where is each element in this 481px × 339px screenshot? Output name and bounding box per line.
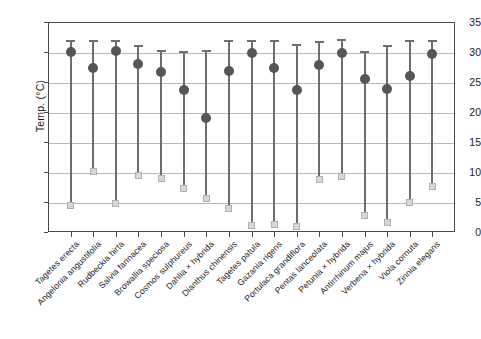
minimum-marker: [316, 176, 323, 183]
range-line: [386, 45, 388, 223]
minimum-marker: [248, 222, 255, 229]
range-line: [70, 40, 72, 205]
minimum-marker: [135, 172, 142, 179]
maximum-marker: [315, 41, 324, 43]
mean-marker: [133, 59, 143, 69]
x-axis-tick-mark: [410, 232, 411, 237]
range-line: [341, 39, 343, 176]
minimum-marker: [361, 212, 368, 219]
minimum-marker: [338, 173, 345, 180]
maximum-marker: [383, 45, 392, 47]
maximum-marker: [292, 44, 301, 46]
maximum-marker: [247, 40, 256, 42]
x-axis-tick-mark: [297, 232, 298, 237]
minimum-marker: [67, 202, 74, 209]
x-axis-tick-mark: [206, 232, 207, 237]
range-line: [296, 44, 298, 226]
mean-marker: [360, 74, 370, 84]
mean-marker: [111, 46, 121, 56]
minimum-marker: [406, 199, 413, 206]
x-axis-tick-mark: [71, 232, 72, 237]
maximum-marker: [111, 40, 120, 42]
range-line: [251, 40, 253, 225]
range-line: [205, 50, 207, 198]
maximum-marker: [89, 40, 98, 42]
x-axis-tick-mark: [342, 232, 343, 237]
minimum-marker: [293, 223, 300, 230]
maximum-marker: [66, 40, 75, 42]
y-axis-title: Temp. (°C): [34, 46, 46, 166]
maximum-marker: [270, 40, 279, 42]
mean-marker: [156, 67, 166, 77]
mean-marker: [224, 66, 234, 76]
maximum-marker: [360, 51, 369, 53]
mean-marker: [88, 63, 98, 73]
chart-figure: Temp. (°C) 05101520253035 Tagetes erecta…: [0, 0, 481, 339]
mean-marker: [405, 71, 415, 81]
maximum-marker: [428, 40, 437, 42]
range-line: [115, 40, 117, 203]
x-axis-tick-mark: [138, 232, 139, 237]
maximum-marker: [179, 51, 188, 53]
x-axis-tick-mark: [387, 232, 388, 237]
maximum-marker: [157, 50, 166, 52]
x-axis-tick-mark: [252, 232, 253, 237]
x-axis-tick-mark: [229, 232, 230, 237]
minimum-marker: [180, 185, 187, 192]
minimum-marker: [429, 183, 436, 190]
x-axis-tick-mark: [365, 232, 366, 237]
maximum-marker: [134, 45, 143, 47]
maximum-marker: [337, 39, 346, 41]
range-line: [431, 40, 433, 186]
minimum-marker: [225, 205, 232, 212]
minimum-marker: [112, 200, 119, 207]
mean-marker: [247, 48, 257, 58]
mean-marker: [179, 85, 189, 95]
range-line: [409, 40, 411, 202]
minimum-marker: [384, 219, 391, 226]
minimum-marker: [271, 221, 278, 228]
x-axis-tick-mark: [432, 232, 433, 237]
range-line: [92, 40, 94, 171]
x-axis-tick-mark: [319, 232, 320, 237]
mean-marker: [337, 48, 347, 58]
x-axis-tick-mark: [161, 232, 162, 237]
range-line: [183, 51, 185, 189]
minimum-marker: [203, 195, 210, 202]
mean-marker: [292, 85, 302, 95]
x-axis-tick-mark: [93, 232, 94, 237]
x-axis-tick-mark: [116, 232, 117, 237]
minimum-marker: [158, 175, 165, 182]
x-axis-tick-mark: [184, 232, 185, 237]
mean-marker: [201, 113, 211, 123]
mean-marker: [427, 49, 437, 59]
mean-marker: [382, 84, 392, 94]
maximum-marker: [405, 40, 414, 42]
maximum-marker: [224, 40, 233, 42]
mean-marker: [66, 47, 76, 57]
x-axis-tick-mark: [274, 232, 275, 237]
mean-marker: [314, 60, 324, 70]
minimum-marker: [90, 168, 97, 175]
data-series-layer: [48, 22, 455, 232]
y-axis-tick-mark: [44, 232, 48, 233]
mean-marker: [269, 63, 279, 73]
maximum-marker: [202, 50, 211, 52]
